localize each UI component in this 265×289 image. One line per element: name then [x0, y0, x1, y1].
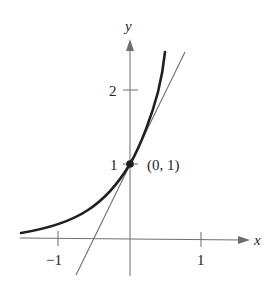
y-tick-label-1: 1 [110, 157, 118, 173]
x-tick-label-neg1: −1 [46, 252, 62, 268]
y-axis-arrow-icon [126, 39, 134, 51]
x-axis [20, 238, 244, 240]
y-tick-label-2: 2 [109, 83, 117, 99]
exponential-curve [21, 52, 165, 233]
chart: x y −1 1 2 1 (0, 1) [0, 0, 265, 289]
point-label: (0, 1) [147, 157, 180, 174]
x-axis-arrow-icon [238, 236, 250, 244]
y-axis-label: y [123, 18, 132, 34]
point-marker [126, 160, 134, 168]
x-tick-label-1: 1 [197, 252, 205, 268]
x-axis-label: x [253, 232, 261, 248]
